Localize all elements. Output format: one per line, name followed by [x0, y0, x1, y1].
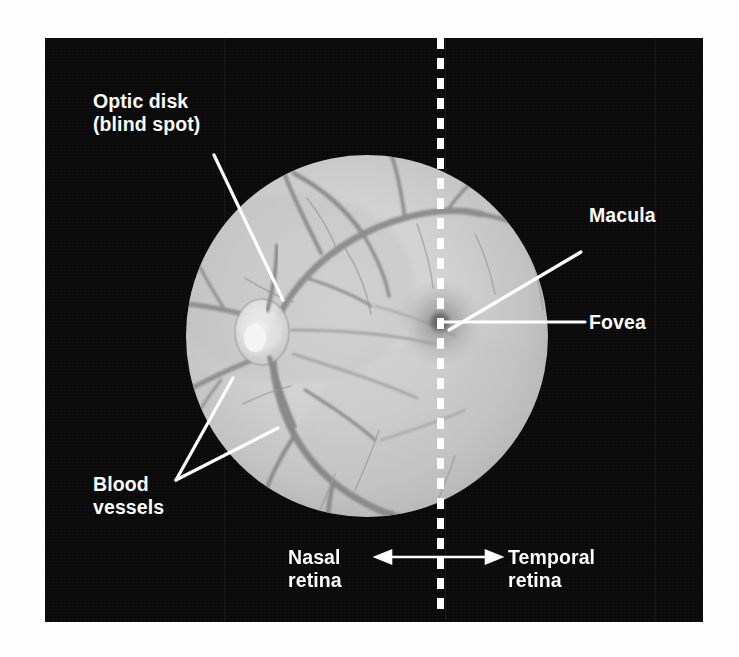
fundus-photo-panel: Optic disk (blind spot) Blood vessels Ma…	[45, 38, 703, 622]
label-macula: Macula	[589, 204, 656, 227]
retina-figure: Optic disk (blind spot) Blood vessels Ma…	[0, 0, 739, 657]
scan-seam-left	[224, 38, 225, 622]
label-nasal-line1: Nasal	[288, 546, 341, 569]
label-temporal-line2: retina	[508, 569, 562, 592]
label-fovea: Fovea	[589, 311, 646, 334]
label-optic-disk-line1: Optic disk	[93, 90, 188, 113]
scan-seam-mid	[445, 38, 446, 622]
label-optic-disk-line2: (blind spot)	[93, 113, 200, 136]
label-blood-vessels-line2: vessels	[93, 496, 164, 519]
label-nasal-line2: retina	[288, 569, 342, 592]
label-blood-vessels-line1: Blood	[93, 473, 149, 496]
label-temporal-line1: Temporal	[508, 546, 595, 569]
scan-seam-right	[655, 38, 656, 622]
